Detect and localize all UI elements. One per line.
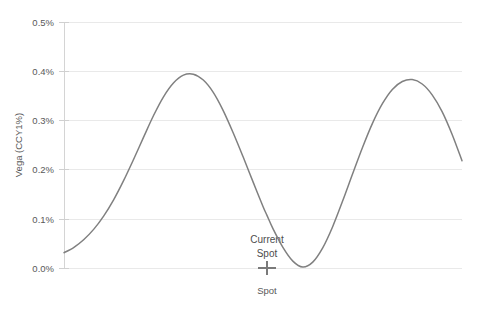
y-tick-label-5: 0.5% — [32, 17, 54, 28]
y-axis — [59, 22, 69, 268]
x-axis-title: Spot — [257, 285, 277, 296]
current-spot-annotation-line2: Spot — [257, 248, 278, 259]
vega-spot-chart: 0.5% 0.4% 0.3% 0.2% 0.1% 0.0% Vega (CCY1… — [0, 0, 481, 309]
y-tick-label-3: 0.3% — [32, 115, 54, 126]
y-tick-label-4: 0.4% — [32, 66, 54, 77]
gridlines — [64, 22, 462, 268]
x-axis — [258, 261, 276, 275]
y-axis-title: Vega (CCY1%) — [13, 113, 24, 177]
y-tick-label-1: 0.1% — [32, 214, 54, 225]
y-tick-label-0: 0.0% — [32, 263, 54, 274]
y-tick-labels: 0.5% 0.4% 0.3% 0.2% 0.1% 0.0% — [32, 17, 54, 274]
y-tick-label-2: 0.2% — [32, 164, 54, 175]
chart-canvas: 0.5% 0.4% 0.3% 0.2% 0.1% 0.0% Vega (CCY1… — [0, 0, 481, 309]
